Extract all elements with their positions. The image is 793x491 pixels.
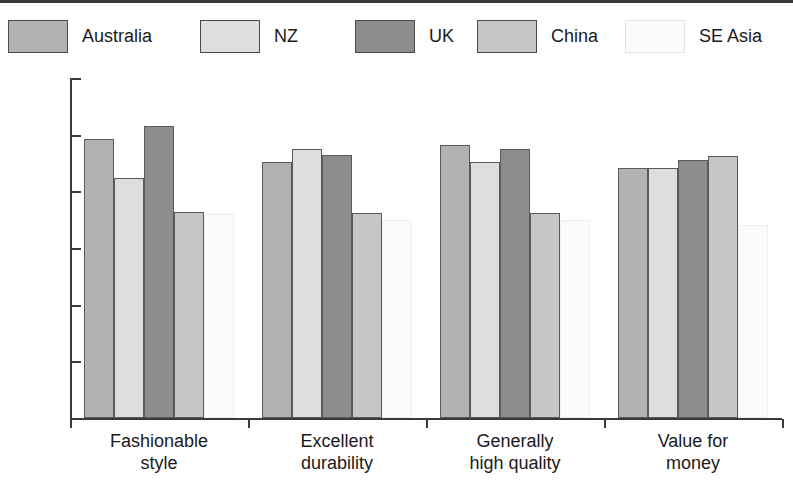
bar: [144, 126, 174, 418]
x-axis-label: Value formoney: [583, 430, 793, 474]
bar: [678, 160, 708, 418]
top-divider: [0, 0, 793, 3]
x-axis-label-line: Value for: [583, 430, 793, 452]
chart-legend: AustraliaNZUKChinaSE Asia: [0, 14, 793, 58]
legend-label: NZ: [274, 27, 298, 45]
y-tick: [72, 361, 81, 363]
bar-chart: AustraliaNZUKChinaSE Asia 0123456 Fashio…: [0, 0, 793, 491]
bar: [352, 213, 382, 418]
legend-item-se-asia[interactable]: SE Asia: [625, 14, 762, 58]
bar: [440, 145, 470, 418]
x-tick: [70, 419, 72, 428]
bar: [174, 212, 204, 418]
x-axis-label-line: money: [583, 452, 793, 474]
legend-swatch-icon: [477, 20, 537, 53]
legend-swatch-icon: [200, 20, 260, 53]
x-tick: [604, 419, 606, 428]
legend-swatch-icon: [355, 20, 415, 53]
bar: [322, 155, 352, 419]
y-tick: [72, 248, 81, 250]
legend-label: UK: [429, 27, 454, 45]
bar: [618, 168, 648, 418]
legend-item-uk[interactable]: UK: [355, 14, 454, 58]
bar: [708, 156, 738, 418]
legend-item-china[interactable]: China: [477, 14, 598, 58]
legend-label: China: [551, 27, 598, 45]
legend-swatch-icon: [625, 20, 685, 53]
bar: [382, 220, 412, 418]
bar: [114, 178, 144, 418]
legend-label: Australia: [82, 27, 152, 45]
legend-label: SE Asia: [699, 27, 762, 45]
legend-item-nz[interactable]: NZ: [200, 14, 298, 58]
bar: [738, 225, 768, 418]
plot-area: 0123456: [70, 78, 782, 418]
bar: [292, 149, 322, 418]
bar: [530, 213, 560, 418]
legend-item-australia[interactable]: Australia: [8, 14, 152, 58]
bar: [262, 162, 292, 418]
bar: [500, 149, 530, 418]
y-tick: [72, 418, 81, 420]
bar: [648, 168, 678, 418]
bar: [204, 214, 234, 418]
x-tick: [248, 419, 250, 428]
legend-swatch-icon: [8, 20, 68, 53]
bar: [84, 139, 114, 418]
y-tick: [72, 78, 81, 80]
y-tick: [72, 135, 81, 137]
bar: [560, 220, 590, 418]
x-tick: [782, 419, 784, 428]
y-tick: [72, 305, 81, 307]
y-tick: [72, 191, 81, 193]
x-tick: [426, 419, 428, 428]
bar: [470, 162, 500, 418]
